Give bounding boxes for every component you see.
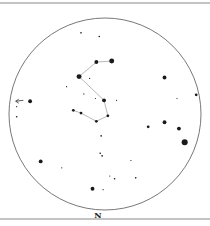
star: [116, 100, 117, 101]
constellation-line: [79, 77, 104, 101]
star: [80, 32, 82, 34]
star: [95, 98, 96, 99]
constellation-line: [104, 100, 108, 116]
star-chart: N: [0, 0, 210, 226]
constellation-lines: [73, 61, 111, 121]
star: [177, 127, 181, 131]
star: [72, 109, 75, 112]
star: [135, 177, 137, 179]
star: [39, 159, 43, 163]
star: [102, 98, 106, 102]
star: [176, 98, 177, 99]
star: [109, 59, 114, 64]
star: [100, 135, 102, 137]
direction-arrow: [16, 99, 24, 103]
star: [114, 178, 116, 180]
star: [109, 175, 110, 176]
star: [28, 99, 32, 103]
star: [163, 76, 167, 80]
star: [16, 116, 18, 118]
star: [66, 86, 67, 87]
star: [80, 112, 83, 115]
star: [77, 74, 82, 79]
star: [98, 36, 100, 38]
star: [83, 93, 84, 94]
star: [102, 189, 103, 190]
star: [182, 139, 188, 145]
star: [99, 152, 101, 154]
star: [195, 93, 198, 96]
star: [91, 187, 95, 191]
star: [61, 167, 62, 168]
star: [147, 125, 150, 128]
star: [89, 78, 90, 79]
star: [95, 120, 98, 123]
star: [94, 60, 98, 64]
constellation-line: [79, 62, 96, 77]
north-label: N: [94, 210, 101, 220]
star: [101, 155, 103, 157]
field-of-view-circle: [9, 18, 201, 210]
constellation-line: [81, 113, 96, 121]
star: [130, 160, 131, 161]
star: [107, 114, 110, 117]
star: [16, 106, 17, 107]
constellation-line: [96, 116, 108, 121]
star: [163, 120, 167, 124]
